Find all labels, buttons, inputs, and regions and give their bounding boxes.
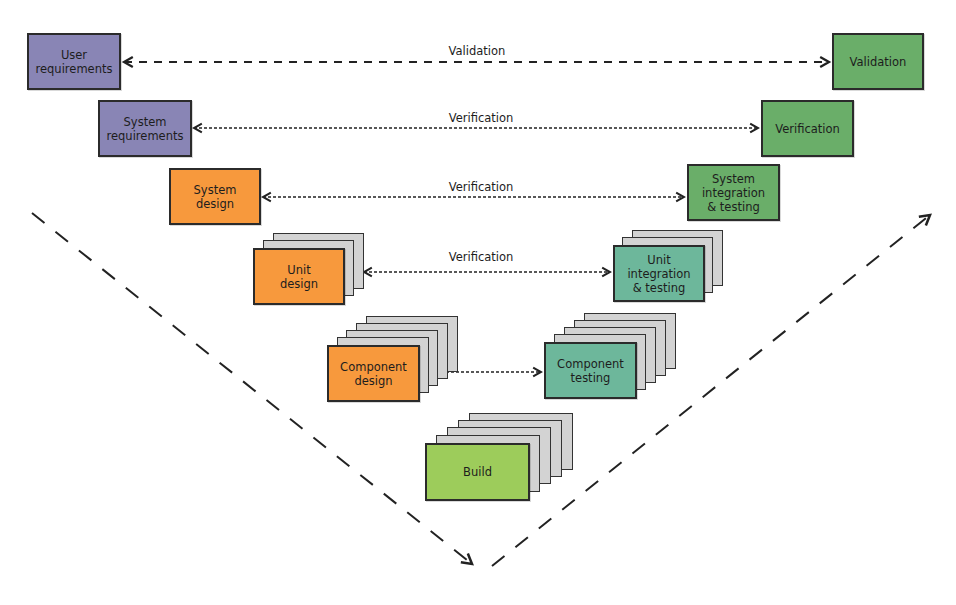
validation-box: Validation <box>832 33 924 90</box>
v-model-diagram: Validation Verification Verification Ver… <box>0 0 956 605</box>
connector-label-verification-2: Verification <box>449 180 514 194</box>
build-box: Build <box>425 443 530 501</box>
verification-box: Verification <box>761 100 854 157</box>
connector-label-verification-3: Verification <box>449 250 514 264</box>
unit-integration-testing-box: Unit integration & testing <box>613 245 705 302</box>
connector-label-verification-1: Verification <box>449 111 514 125</box>
component-testing-box: Component testing <box>544 342 637 399</box>
connector-label-validation: Validation <box>449 44 506 58</box>
component-design-box: Component design <box>327 345 420 402</box>
system-requirements-box: System requirements <box>98 100 192 157</box>
system-design-box: System design <box>169 168 261 225</box>
user-requirements-box: User requirements <box>27 33 121 90</box>
connector-lines <box>0 0 956 605</box>
unit-design-box: Unit design <box>253 248 345 305</box>
system-integration-testing-box: System integration & testing <box>687 164 780 221</box>
